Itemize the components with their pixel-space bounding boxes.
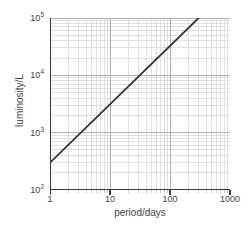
y-tick-exp-1e2: 2 [40, 183, 44, 190]
y-tick-exp-1e4: 4 [40, 68, 44, 75]
x-tick-label-10: 10 [105, 194, 115, 204]
x-axis-label: period/days [50, 207, 230, 218]
y-tick-label-1e2: 102 [18, 185, 44, 195]
y-tick-base-1e2: 10 [30, 185, 40, 195]
y-tick-base-1e5: 10 [30, 13, 40, 23]
x-tick-label-1: 1 [47, 194, 52, 204]
plot-axes [50, 18, 230, 190]
y-tick-exp-1e3: 3 [40, 126, 44, 133]
plot-area [50, 18, 230, 190]
x-tick-label-1000: 1000 [220, 194, 240, 204]
y-tick-label-1e5: 105 [18, 13, 44, 23]
x-tick-label-100: 100 [162, 194, 177, 204]
y-tick-exp-1e5: 5 [40, 11, 44, 18]
y-tick-base-1e3: 10 [30, 128, 40, 138]
y-tick-base-1e4: 10 [30, 70, 40, 80]
y-axis-label: luminosity/L [14, 41, 25, 161]
chart-figure: 1 10 100 1000 102 103 104 105 period/day… [0, 0, 251, 235]
